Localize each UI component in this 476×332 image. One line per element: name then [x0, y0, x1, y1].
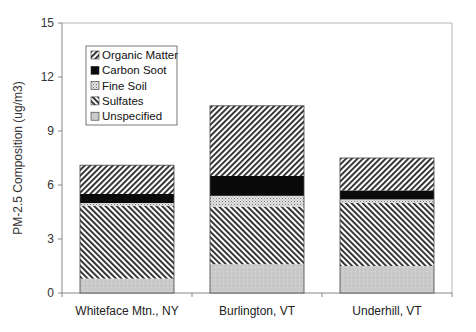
- y-tick-label: 12: [41, 70, 55, 84]
- y-axis-ticks: 03691215: [41, 16, 62, 300]
- legend-label: Fine Soil: [102, 80, 147, 92]
- bar-segment-carbon-soot: [80, 194, 174, 203]
- legend-item: Organic Matter: [91, 49, 178, 61]
- legend-label: Organic Matter: [102, 49, 178, 61]
- legend-label: Unspecified: [102, 110, 162, 122]
- legend-label: Carbon Soot: [102, 64, 167, 76]
- legend-swatch-carbon-soot: [91, 66, 99, 74]
- bar-segment-organic-matter: [340, 158, 434, 190]
- bar-segment-organic-matter: [210, 106, 304, 176]
- bar-segment-carbon-soot: [210, 176, 304, 196]
- bars: [80, 106, 434, 293]
- legend-swatch-fine-soil: [91, 82, 99, 90]
- legend-item: Sulfates: [91, 95, 144, 107]
- x-axis-ticks: Whiteface Mtn., NYBurlington, VTUnderhil…: [62, 293, 452, 318]
- y-tick-label: 3: [47, 232, 54, 246]
- bar-segment-organic-matter: [80, 165, 174, 194]
- bar-segment-sulfates: [80, 206, 174, 279]
- legend-swatch-organic-matter: [91, 51, 99, 59]
- y-axis-label: PM-2.5 Composition (ug/m3): [11, 81, 25, 234]
- bar-stack: [340, 158, 434, 293]
- bar-stack: [210, 106, 304, 293]
- x-tick-label: Underhill, VT: [352, 304, 422, 318]
- legend-item: Carbon Soot: [91, 64, 167, 76]
- bar-stack: [80, 165, 174, 293]
- bar-segment-unspecified: [210, 264, 304, 293]
- bar-segment-unspecified: [340, 266, 434, 293]
- bar-segment-fine-soil: [340, 199, 434, 203]
- legend: Organic MatterCarbon SootFine SoilSulfat…: [86, 46, 178, 125]
- bar-segment-unspecified: [80, 279, 174, 293]
- bar-segment-carbon-soot: [340, 190, 434, 199]
- legend-item: Unspecified: [91, 110, 162, 122]
- y-tick-label: 0: [47, 286, 54, 300]
- legend-label: Sulfates: [102, 95, 144, 107]
- bar-segment-sulfates: [340, 203, 434, 266]
- y-tick-label: 9: [47, 124, 54, 138]
- stacked-bar-chart: 03691215 Whiteface Mtn., NYBurlington, V…: [0, 0, 476, 332]
- x-tick-label: Burlington, VT: [219, 304, 296, 318]
- y-tick-label: 6: [47, 178, 54, 192]
- bar-segment-sulfates: [210, 207, 304, 265]
- x-tick-label: Whiteface Mtn., NY: [75, 304, 178, 318]
- legend-swatch-sulfates: [91, 97, 99, 105]
- legend-swatch-unspecified: [91, 112, 99, 120]
- bar-segment-fine-soil: [210, 196, 304, 207]
- bar-segment-fine-soil: [80, 203, 174, 206]
- y-tick-label: 15: [41, 16, 55, 30]
